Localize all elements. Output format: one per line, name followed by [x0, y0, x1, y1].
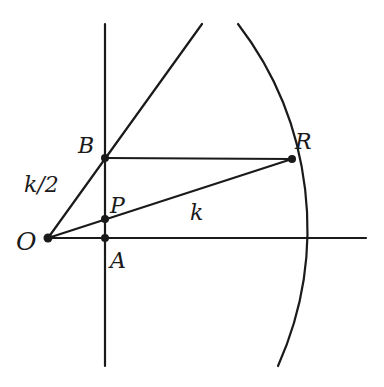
ray-OB	[48, 24, 202, 238]
point-B	[101, 154, 109, 162]
label-k-half: k/2	[24, 172, 59, 197]
geometry-diagram: O A P B R k/2 k	[0, 0, 384, 387]
point-R	[288, 155, 296, 163]
point-O	[44, 234, 53, 243]
point-A	[101, 234, 109, 242]
label-O: O	[16, 227, 37, 256]
segment-BR	[105, 158, 292, 159]
label-P: P	[109, 193, 126, 218]
label-R: R	[294, 129, 312, 154]
label-A: A	[108, 248, 126, 273]
circle-arc	[238, 24, 307, 366]
point-P	[101, 215, 109, 223]
segment-OR	[48, 159, 292, 238]
label-k: k	[190, 200, 203, 225]
diagram-svg: O A P B R k/2 k	[0, 0, 384, 387]
label-B: B	[77, 133, 94, 158]
